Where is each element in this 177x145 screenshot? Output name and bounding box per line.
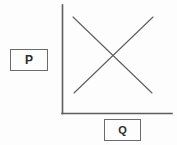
demand-curve — [73, 17, 152, 93]
quantity-axis-label-text: Q — [118, 125, 127, 136]
quantity-axis-label-box: Q — [104, 119, 141, 141]
price-axis-label-text: P — [25, 54, 33, 66]
price-axis-label-box: P — [10, 49, 48, 71]
plot-area — [0, 0, 177, 145]
supply-curve — [74, 17, 153, 93]
diagram-canvas: P Q — [0, 0, 177, 145]
